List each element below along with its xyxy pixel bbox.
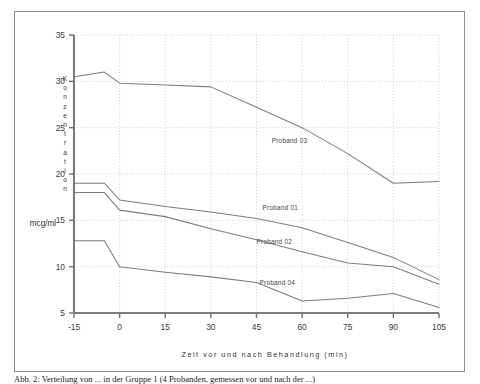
y-axis-tick-label: 5 — [60, 308, 65, 318]
y-axis-title-letter: n — [63, 184, 67, 193]
x-axis-tick-label: 75 — [343, 322, 353, 332]
y-axis-title-letter: t — [64, 129, 66, 138]
y-axis-title-letter: t — [64, 157, 66, 166]
y-axis-title-letter: n — [63, 120, 67, 129]
y-axis-title-letter: r — [64, 138, 66, 147]
series-labels-group: Proband 01Proband 02Proband 03Proband 04 — [257, 137, 308, 286]
chart-plate: 5101520253035-150153045607590105 Proband… — [14, 11, 465, 372]
y-axis-tick-label: 15 — [56, 215, 66, 225]
y-axis-title-vertical: Konzentration — [59, 74, 71, 194]
x-axis-tick-label: 60 — [297, 322, 307, 332]
y-axis-title-letter: e — [63, 111, 67, 120]
x-axis-tick-label: 0 — [117, 322, 122, 332]
x-axis-tick-label: 15 — [161, 322, 171, 332]
series-label-proband-03: Proband 03 — [272, 137, 308, 144]
series-group — [74, 72, 439, 307]
y-axis-title-letter: n — [63, 92, 67, 101]
x-axis-tick-label: 45 — [252, 322, 262, 332]
gridlines-group — [74, 35, 439, 313]
x-axis-title: Zeit vor und nach Behandlung (min) — [181, 350, 348, 359]
x-axis-tick-label: 90 — [389, 322, 399, 332]
y-axis-title-letter: i — [64, 166, 65, 175]
series-label-proband-01: Proband 01 — [263, 204, 299, 211]
y-axis-title-letter: o — [63, 83, 67, 92]
series-label-proband-02: Proband 02 — [257, 238, 293, 245]
figure-container: 5101520253035-150153045607590105 Proband… — [0, 0, 480, 384]
x-axis-tick-label: 105 — [432, 322, 446, 332]
x-axis-tick-label: 30 — [206, 322, 216, 332]
y-axis-title-letter: z — [63, 102, 66, 111]
series-label-proband-04: Proband 04 — [260, 279, 296, 286]
y-axis-tick-label: 35 — [56, 30, 66, 40]
y-axis-tick-label: 10 — [56, 262, 66, 272]
x-axis-tick-label: -15 — [68, 322, 80, 332]
y-axis-title-letter: a — [63, 148, 67, 157]
y-axis-unit-label: mcg/ml — [30, 219, 57, 228]
line-chart-canvas: 5101520253035-150153045607590105 Proband… — [15, 12, 466, 373]
y-axis-title-letter: o — [63, 175, 67, 184]
figure-caption: Abb. 2: Verteilung von ... in der Gruppe… — [14, 374, 474, 384]
tick-labels-group: 5101520253035-150153045607590105 — [56, 30, 447, 332]
y-axis-title-letter: K — [63, 74, 67, 83]
